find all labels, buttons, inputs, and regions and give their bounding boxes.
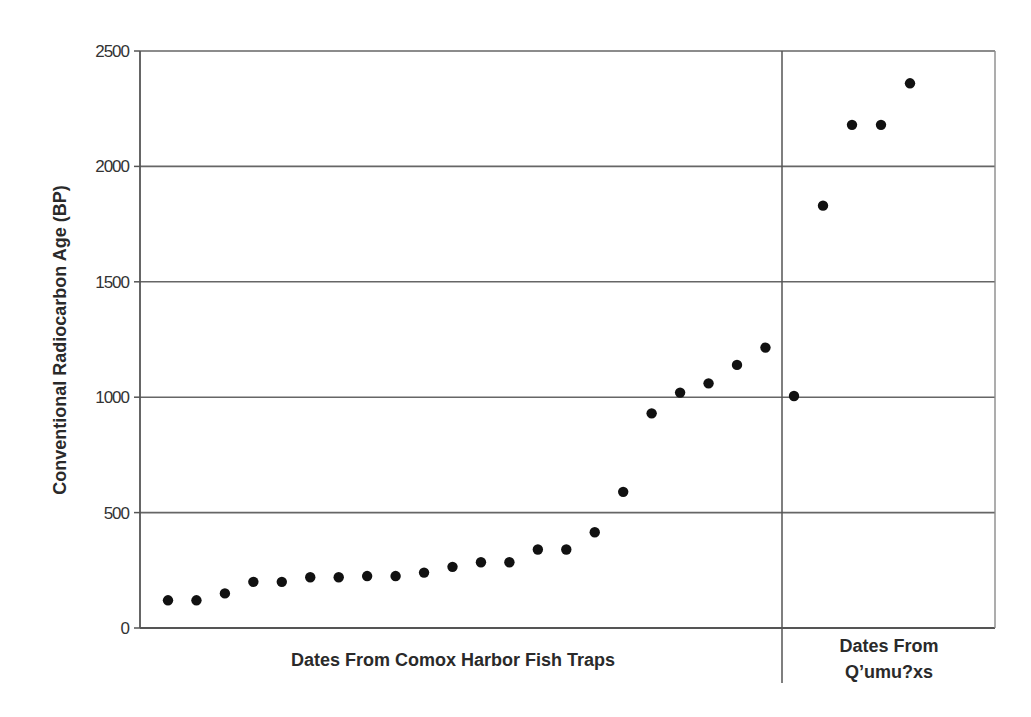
axes [134,51,995,683]
data-point [220,588,230,598]
group-labels: Dates From Comox Harbor Fish TrapsDates … [291,636,939,682]
y-tick-label: 1500 [95,273,129,292]
data-point [504,557,514,567]
data-point [760,342,770,352]
data-point [646,408,656,418]
data-point [789,391,799,401]
data-point [675,387,685,397]
group-label-comox: Dates From Comox Harbor Fish Traps [291,650,615,670]
data-point [362,571,372,581]
data-point [618,487,628,497]
data-point [703,378,713,388]
data-point [533,544,543,554]
data-point [476,557,486,567]
data-point [334,572,344,582]
data-point [419,567,429,577]
data-points [163,78,915,605]
y-tick-label: 2500 [95,42,129,61]
data-point [163,595,173,605]
gridlines [140,51,995,513]
y-axis-title: Conventional Radiocarbon Age (BP) [50,185,70,494]
y-tick-label: 0 [121,619,130,638]
data-point [248,577,258,587]
data-point [561,544,571,554]
group-label-qumuxs: Dates From [839,636,938,656]
group-label-qumuxs: Q’umu?xs [845,662,933,682]
data-point [390,571,400,581]
y-tick-labels: 05001000150020002500 [95,42,129,638]
y-tick-label: 1000 [95,388,129,407]
data-point [277,577,287,587]
data-point [905,78,915,88]
y-tick-label: 2000 [95,157,129,176]
data-point [732,360,742,370]
data-point [191,595,201,605]
data-point [818,200,828,210]
data-point [305,572,315,582]
radiocarbon-scatter-chart: 05001000150020002500 Conventional Radioc… [0,0,1031,717]
data-point [590,527,600,537]
data-point [847,120,857,130]
y-tick-label: 500 [104,504,130,523]
data-point [447,562,457,572]
data-point [876,120,886,130]
